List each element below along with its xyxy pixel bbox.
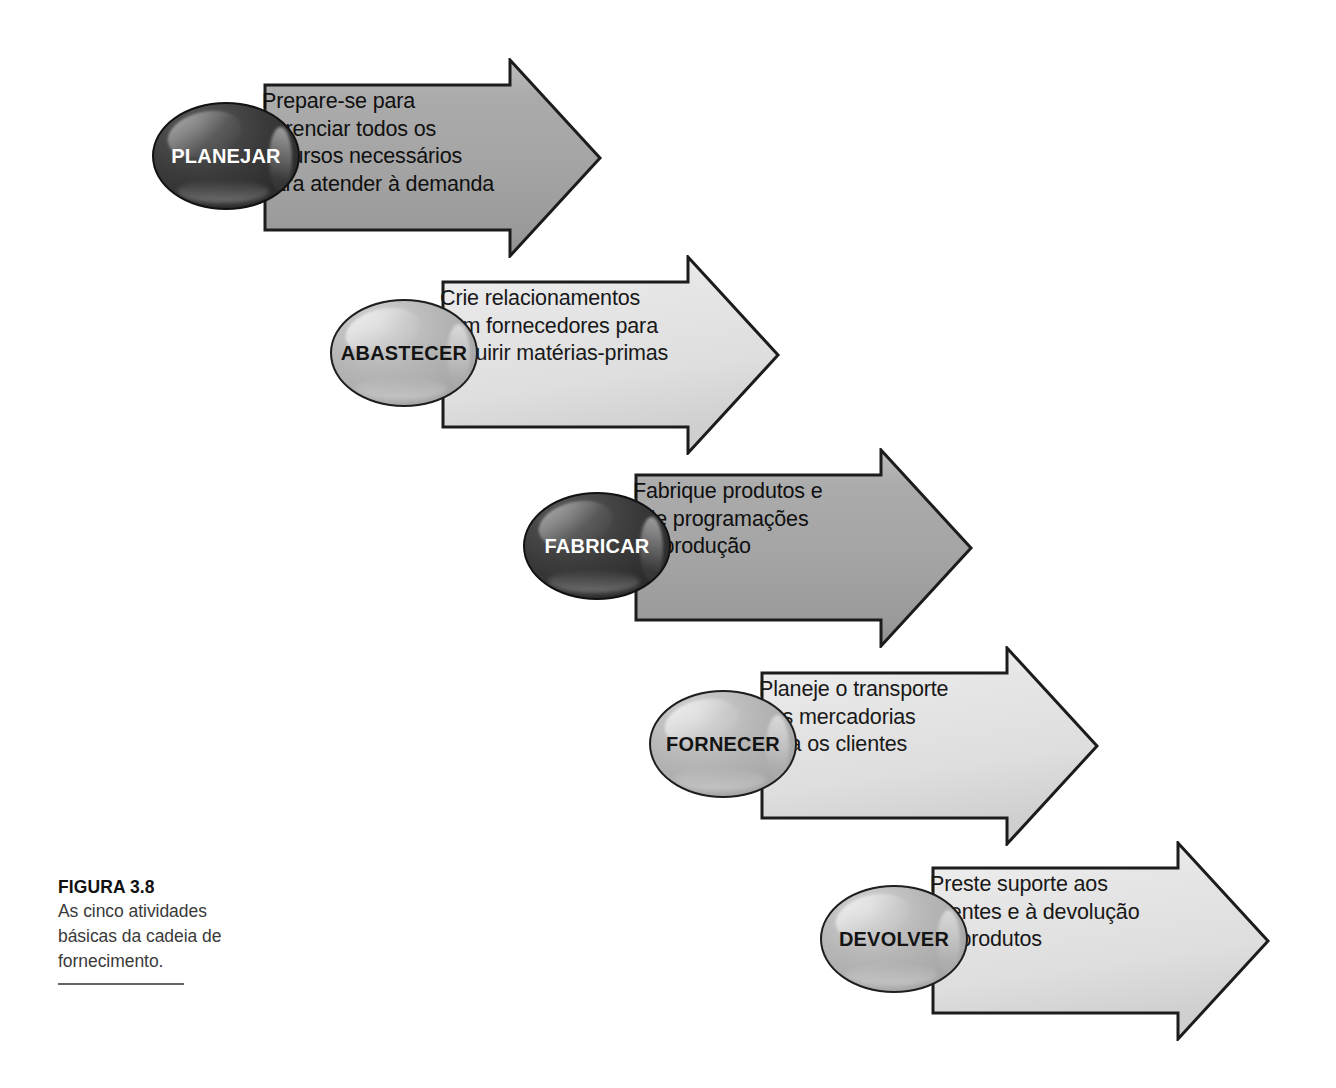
- step-badge-label-3: FABRICAR: [545, 535, 650, 558]
- process-step-4[interactable]: Planeje o transporte das mercadorias par…: [607, 646, 1207, 846]
- step-badge-devolver[interactable]: DEVOLVER: [820, 885, 968, 993]
- step-badge-fornecer[interactable]: FORNECER: [649, 690, 797, 798]
- step-badge-abastecer[interactable]: ABASTECER: [330, 299, 478, 407]
- step-badge-label-5: DEVOLVER: [839, 928, 949, 951]
- process-step-5[interactable]: Preste suporte aos clientes e à devoluçã…: [778, 841, 1336, 1041]
- process-step-2[interactable]: Crie relacionamentos com fornecedores pa…: [288, 255, 888, 455]
- badge-gloss-bottom: [674, 768, 766, 791]
- caption-divider: [58, 983, 184, 985]
- process-step-1[interactable]: Prepare-se para gerenciar todos os recur…: [110, 58, 710, 258]
- badge-gloss-bottom: [355, 377, 447, 400]
- scan-artifact-mark: [248, 0, 398, 12]
- process-step-3[interactable]: Fabrique produtos e crie programações de…: [481, 448, 1081, 648]
- step-description-2: Crie relacionamentos com fornecedores pa…: [440, 285, 770, 368]
- figure-caption-body: As cinco atividades básicas da cadeia de…: [58, 899, 273, 974]
- step-badge-fabricar[interactable]: FABRICAR: [523, 492, 671, 600]
- step-description-3: Fabrique produtos e crie programações de…: [633, 478, 963, 561]
- step-badge-label-1: PLANEJAR: [171, 145, 280, 168]
- step-description-4: Planeje o transporte das mercadorias par…: [759, 676, 1089, 759]
- step-description-5: Preste suporte aos clientes e à devoluçã…: [930, 871, 1260, 954]
- figure-caption: FIGURA 3.8 As cinco atividades básicas d…: [58, 876, 273, 985]
- step-badge-planejar[interactable]: PLANEJAR: [152, 102, 300, 210]
- step-badge-label-2: ABASTECER: [341, 342, 467, 365]
- step-badge-label-4: FORNECER: [666, 733, 780, 756]
- badge-gloss-bottom: [177, 180, 269, 203]
- step-description-1: Prepare-se para gerenciar todos os recur…: [262, 88, 592, 198]
- figure-canvas: Prepare-se para gerenciar todos os recur…: [0, 0, 1336, 1088]
- badge-gloss-bottom: [548, 570, 640, 593]
- badge-gloss-bottom: [845, 963, 937, 986]
- figure-caption-title: FIGURA 3.8: [58, 876, 273, 899]
